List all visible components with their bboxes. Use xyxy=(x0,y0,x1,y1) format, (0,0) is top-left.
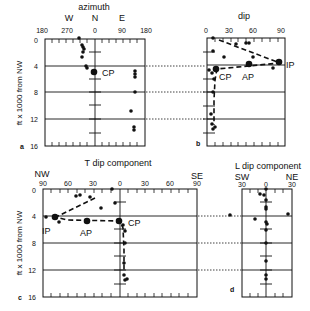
ap-label: AP xyxy=(242,72,254,82)
panel-b: dip 0 30 60 90 b xyxy=(196,11,295,147)
x-tick-label: 0 xyxy=(93,27,97,34)
panel-letter: c xyxy=(18,294,22,301)
x-tick-label: 30 xyxy=(288,181,296,188)
x-tick-label: 0 xyxy=(204,27,208,34)
depth-tick-label: 12 xyxy=(28,267,36,274)
panel-letter: a xyxy=(20,143,24,150)
panel-c-title: T dip component xyxy=(85,158,152,168)
depth-tick-label: 12 xyxy=(30,116,38,123)
connector-lines xyxy=(198,216,242,270)
x-tick-label: 90 xyxy=(118,27,126,34)
x-tick-label: 30 xyxy=(89,180,97,187)
x-tick-label: 30 xyxy=(225,27,233,34)
x-tick-label: 60 xyxy=(64,180,72,187)
connector-lines xyxy=(146,66,205,119)
x-tick-label: 0 xyxy=(118,180,122,187)
cp-label: CP xyxy=(128,218,141,228)
north-label: N xyxy=(92,13,99,23)
x-tick-label: 270 xyxy=(61,27,73,34)
panel-d: L dip component SW NE 30 0 30 d xyxy=(228,161,301,297)
x-tick-label: 90 xyxy=(39,180,47,187)
ip-label: IP xyxy=(286,60,295,70)
x-tick-label: 60 xyxy=(166,180,174,187)
x-tick-label: 90 xyxy=(193,180,201,187)
panel-a: azimuth W N E 180 270 0 90 180 0 4 8 12 … xyxy=(15,2,152,150)
cp-label: CP xyxy=(219,72,232,82)
dashed-trend-line xyxy=(214,40,280,125)
panel-a-title: azimuth xyxy=(78,2,110,12)
figure: azimuth W N E 180 270 0 90 180 0 4 8 12 … xyxy=(0,0,310,311)
axis-ticks xyxy=(52,39,137,146)
x-tick-label: 90 xyxy=(277,27,285,34)
panel-c: T dip component NW SE 90 60 30 0 30 60 9… xyxy=(15,158,203,301)
depth-tick-label: 4 xyxy=(34,63,38,70)
y-axis-label: ft x 1000 from NW xyxy=(15,210,24,275)
x-tick-label: 0 xyxy=(264,181,268,188)
y-axis-label: ft x 1000 from NW xyxy=(15,60,24,125)
west-label: W xyxy=(65,13,74,23)
data-points xyxy=(228,187,290,281)
depth-tick-label: 16 xyxy=(28,294,36,301)
ip-label: IP xyxy=(42,226,51,236)
x-tick-label: 30 xyxy=(141,180,149,187)
ap-label: AP xyxy=(80,228,92,238)
depth-tick-label: 8 xyxy=(34,89,38,96)
panel-letter: d xyxy=(230,286,234,293)
panel-letter: b xyxy=(196,140,200,147)
panel-d-title: L dip component xyxy=(235,161,302,171)
x-tick-label: 30 xyxy=(238,181,246,188)
cp-label: CP xyxy=(102,68,115,78)
panel-b-title: dip xyxy=(238,11,250,21)
depth-tick-label: 8 xyxy=(32,240,36,247)
nw-label: NW xyxy=(35,169,50,179)
east-label: E xyxy=(119,13,125,23)
depth-tick-label: 4 xyxy=(32,213,36,220)
x-tick-label: 60 xyxy=(249,27,257,34)
depth-tick-label: 16 xyxy=(30,143,38,150)
x-tick-label: 180 xyxy=(140,27,152,34)
depth-tick-label: 0 xyxy=(32,187,36,194)
data-points xyxy=(77,36,137,132)
depth-tick-label: 0 xyxy=(34,37,38,44)
x-tick-label: 180 xyxy=(36,27,48,34)
